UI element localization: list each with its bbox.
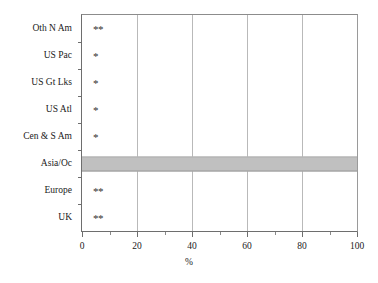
bar-row: * [82, 96, 357, 123]
x-tick-20 [137, 232, 138, 237]
chart-figure: ********** Oth N AmUS PacUS Gt LksUS Atl… [0, 0, 378, 283]
x-tick-100 [357, 232, 358, 237]
y-axis-label: Asia/Oc [0, 159, 72, 169]
x-tick-80 [302, 232, 303, 237]
x-minor-tick-90 [330, 232, 331, 235]
y-axis-label: Oth N Am [0, 24, 72, 34]
significance-marker: * [93, 50, 98, 61]
bar-row: * [82, 69, 357, 96]
y-axis-label: Cen & S Am [0, 132, 72, 142]
bar-asia-oc [82, 156, 357, 171]
y-tick [78, 177, 82, 178]
y-tick [78, 150, 82, 151]
significance-marker: ** [93, 185, 103, 196]
bar-row: ** [82, 204, 357, 231]
significance-marker: * [93, 131, 98, 142]
significance-marker: * [93, 104, 98, 115]
significance-marker: ** [93, 23, 103, 34]
y-axis-label: US Pac [0, 51, 72, 61]
x-tick-label: 0 [80, 242, 85, 252]
y-axis-label: US Gt Lks [0, 78, 72, 88]
significance-marker: ** [93, 212, 103, 223]
y-tick [78, 123, 82, 124]
y-tick [78, 69, 82, 70]
y-tick [78, 96, 82, 97]
bar-row [82, 150, 357, 177]
x-minor-tick-50 [220, 232, 221, 235]
x-minor-tick-30 [165, 232, 166, 235]
bar-row: ** [82, 15, 357, 42]
bar-row: * [82, 123, 357, 150]
plot-area: ********** [81, 14, 358, 232]
x-tick-label: 80 [297, 242, 307, 252]
y-axis-label: UK [0, 213, 72, 223]
y-axis-label: US Atl [0, 105, 72, 115]
x-axis-title: % [0, 258, 378, 268]
x-minor-tick-70 [275, 232, 276, 235]
bar-row: ** [82, 177, 357, 204]
x-tick-40 [192, 232, 193, 237]
significance-marker: * [93, 77, 98, 88]
y-tick [78, 42, 82, 43]
x-minor-tick-10 [110, 232, 111, 235]
x-tick-label: 40 [187, 242, 197, 252]
x-tick-0 [82, 232, 83, 237]
y-tick [78, 204, 82, 205]
x-tick-label: 100 [350, 242, 364, 252]
bar-row: * [82, 42, 357, 69]
x-tick-label: 20 [132, 242, 142, 252]
y-axis-label: Europe [0, 186, 72, 196]
x-tick-60 [247, 232, 248, 237]
x-tick-label: 60 [242, 242, 252, 252]
